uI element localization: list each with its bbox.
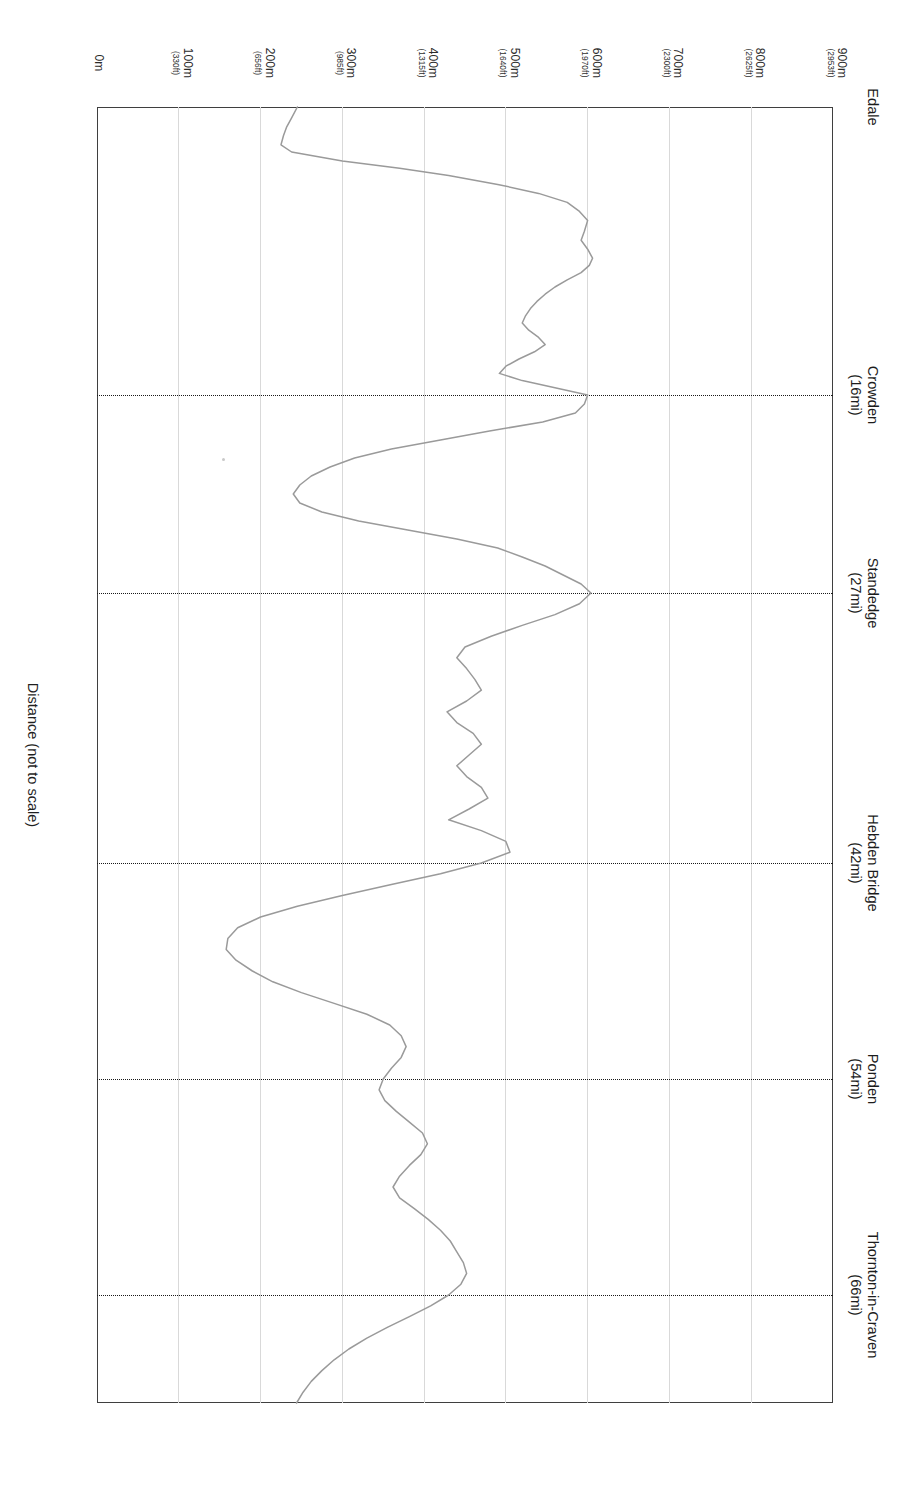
elevation-tick-metres: 400m	[426, 48, 439, 78]
elevation-tick-900: 900m(2953ft)	[825, 48, 848, 78]
elevation-tick-200: 200m(656ft)	[253, 48, 276, 78]
elevation-tick-metres: 100m	[180, 48, 193, 78]
elevation-tick-metres: 200m	[262, 48, 275, 78]
waypoint-name: Hebden Bridge	[865, 814, 881, 911]
elevation-tick-100: 100m(330ft)	[171, 48, 194, 78]
elevation-tick-300: 300m(985ft)	[335, 48, 358, 78]
waypoint-label-ponden: Ponden(54mi)	[847, 1054, 881, 1104]
elevation-tick-400: 400m(1315ft)	[416, 48, 439, 78]
elevation-tick-0: 0m	[92, 55, 105, 72]
x-axis-title: Distance (not to scale)	[25, 683, 41, 827]
elevation-tick-metres: 700m	[671, 48, 684, 78]
elevation-tick-feet: (1640ft)	[498, 48, 507, 78]
elevation-tick-metres: 0m	[92, 55, 105, 72]
waypoint-label-thornton-in-craven: Thornton-in-Craven(66mi)	[847, 1232, 881, 1359]
elevation-tick-feet: (2625ft)	[743, 48, 752, 78]
waypoint-label-crowden: Crowden(16mi)	[847, 366, 881, 424]
elevation-tick-feet: (2300ft)	[662, 48, 671, 78]
elevation-profile-line	[97, 107, 833, 1403]
waypoint-label-standedge: Standedge(27mi)	[847, 558, 881, 629]
waypoint-distance: (54mi)	[847, 1054, 864, 1104]
waypoint-distance: (16mi)	[847, 366, 864, 424]
waypoint-name: Ponden	[865, 1054, 881, 1104]
waypoint-label-edale: Edale	[864, 88, 881, 125]
waypoint-distance: (66mi)	[847, 1232, 864, 1359]
scan-artifact-speck	[222, 458, 225, 461]
elevation-tick-feet: (656ft)	[253, 48, 262, 78]
elevation-tick-metres: 900m	[835, 48, 848, 78]
elevation-tick-metres: 800m	[753, 48, 766, 78]
elevation-tick-metres: 500m	[507, 48, 520, 78]
elevation-tick-feet: (1970ft)	[580, 48, 589, 78]
elevation-tick-feet: (330ft)	[171, 48, 180, 78]
waypoint-distance: (42mi)	[847, 814, 864, 911]
rotated-chart-stage: 900m(2953ft)800m(2625ft)700m(2300ft)600m…	[0, 0, 897, 1485]
elevation-profile-figure: 900m(2953ft)800m(2625ft)700m(2300ft)600m…	[0, 0, 897, 1485]
elevation-tick-feet: (985ft)	[335, 48, 344, 78]
elevation-tick-500: 500m(1640ft)	[498, 48, 521, 78]
waypoint-name: Edale	[865, 88, 881, 125]
elevation-tick-600: 600m(1970ft)	[580, 48, 603, 78]
elevation-tick-feet: (1315ft)	[416, 48, 425, 78]
elevation-tick-700: 700m(2300ft)	[662, 48, 685, 78]
waypoint-name: Standedge	[865, 558, 881, 629]
elevation-tick-metres: 300m	[344, 48, 357, 78]
elevation-tick-feet: (2953ft)	[825, 48, 834, 78]
elevation-tick-metres: 600m	[589, 48, 602, 78]
waypoint-distance: (27mi)	[847, 558, 864, 629]
waypoint-name: Thornton-in-Craven	[865, 1232, 881, 1359]
elevation-tick-800: 800m(2625ft)	[743, 48, 766, 78]
waypoint-name: Crowden	[865, 366, 881, 424]
waypoint-label-hebden-bridge: Hebden Bridge(42mi)	[847, 814, 881, 911]
